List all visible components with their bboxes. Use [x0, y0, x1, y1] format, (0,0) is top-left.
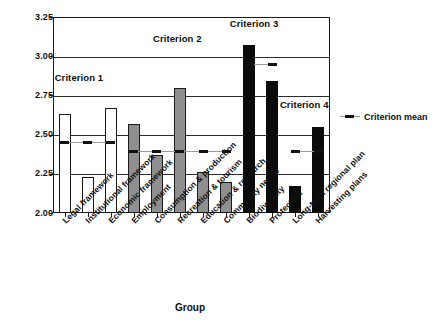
x-tick-labels: Legal frameworkInstitutional frameworkEc… [0, 0, 445, 330]
legend: Criterion mean [340, 112, 428, 122]
chart-figure: 2.002.252.502.753.003.25 Criterion 1Crit… [0, 0, 445, 330]
legend-label-criterion-mean: Criterion mean [364, 112, 428, 122]
criterion-mean-swatch-icon [340, 114, 360, 120]
x-axis-title: Group [0, 302, 380, 313]
